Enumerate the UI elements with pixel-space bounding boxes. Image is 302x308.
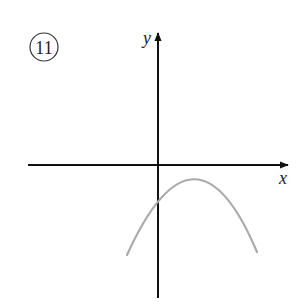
y-axis-label: y	[141, 28, 151, 48]
x-axis-label: x	[278, 168, 287, 188]
problem-number-badge: 11	[30, 33, 58, 61]
problem-number: 11	[35, 38, 52, 58]
parabola-curve	[127, 179, 257, 255]
graph-figure: 11 y x	[0, 0, 302, 308]
